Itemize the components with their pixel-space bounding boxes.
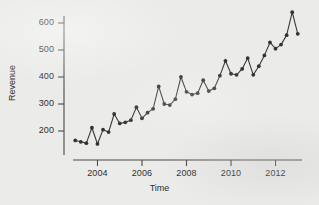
- data-point: [224, 59, 228, 63]
- data-point: [173, 97, 177, 101]
- y-axis-title: Revenue: [7, 53, 17, 113]
- data-point: [268, 41, 272, 45]
- data-point: [107, 130, 111, 134]
- x-axis-tick-label: 2008: [167, 168, 207, 178]
- data-point: [101, 128, 105, 132]
- x-axis-tick-label: 2004: [77, 168, 117, 178]
- data-point: [296, 32, 300, 36]
- revenue-series-points: [73, 10, 299, 146]
- data-point: [112, 112, 116, 116]
- data-point: [235, 73, 239, 77]
- data-point: [135, 105, 139, 109]
- data-point: [246, 56, 250, 60]
- data-point: [240, 67, 244, 71]
- data-point: [79, 140, 83, 144]
- data-point: [207, 89, 211, 93]
- data-point: [262, 54, 266, 58]
- data-point: [151, 107, 155, 111]
- x-axis-tick-label: 2012: [256, 168, 296, 178]
- data-point: [251, 73, 255, 77]
- data-point: [96, 142, 100, 146]
- data-point: [201, 78, 205, 82]
- data-point: [140, 116, 144, 120]
- y-axis-tick-label: 600: [14, 17, 54, 27]
- data-point: [290, 10, 294, 14]
- data-point: [218, 74, 222, 78]
- x-axis-title: Time: [0, 183, 319, 193]
- data-point: [118, 122, 122, 126]
- data-point: [274, 47, 278, 51]
- data-point: [129, 118, 133, 122]
- y-axis-tick-label: 500: [14, 44, 54, 54]
- y-axis-tick-label: 200: [14, 125, 54, 135]
- data-point: [229, 72, 233, 76]
- data-point: [179, 75, 183, 79]
- data-point: [196, 91, 200, 95]
- data-point: [73, 139, 77, 143]
- data-point: [190, 93, 194, 97]
- data-point: [285, 33, 289, 37]
- data-point: [162, 102, 166, 106]
- data-point: [257, 64, 261, 68]
- y-axis-ticks: [58, 23, 64, 131]
- data-point: [185, 90, 189, 94]
- data-point: [279, 43, 283, 47]
- x-axis-ticks: [97, 160, 275, 166]
- y-axis-tick-label: 300: [14, 98, 54, 108]
- x-axis-tick-label: 2010: [211, 168, 251, 178]
- chart-figure: 200300400500600 20042006200820102012 Tim…: [0, 0, 319, 205]
- revenue-series-line: [75, 12, 298, 144]
- data-point: [123, 120, 127, 124]
- data-point: [212, 86, 216, 90]
- data-point: [157, 85, 161, 89]
- x-axis-tick-label: 2006: [122, 168, 162, 178]
- y-axis-tick-label: 400: [14, 71, 54, 81]
- data-point: [90, 126, 94, 130]
- data-point: [84, 141, 88, 145]
- data-point: [146, 111, 150, 115]
- data-point: [168, 103, 172, 107]
